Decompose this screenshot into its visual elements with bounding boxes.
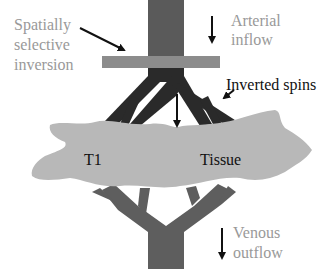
inverted-spins-vessels xyxy=(104,62,238,126)
label-spatially: Spatially xyxy=(14,16,71,34)
label-outflow: outflow xyxy=(233,244,283,261)
label-inversion: inversion xyxy=(14,56,74,73)
artery-trunk xyxy=(148,0,184,62)
inversion-slab xyxy=(102,56,220,68)
venous-tree xyxy=(92,184,236,269)
label-inverted-spins: Inverted spins xyxy=(226,76,316,94)
arterial-spin-labeling-diagram: Spatially selective inversion Arterial i… xyxy=(0,0,331,269)
label-arterial: Arterial xyxy=(231,12,281,29)
label-t1: T1 xyxy=(84,151,102,168)
label-selective: selective xyxy=(14,36,70,53)
label-tissue: Tissue xyxy=(200,151,241,168)
label-inflow: inflow xyxy=(231,31,273,48)
label-venous: Venous xyxy=(233,224,280,241)
inversion-pointer-arrow xyxy=(80,28,124,50)
tissue-region xyxy=(32,110,312,187)
